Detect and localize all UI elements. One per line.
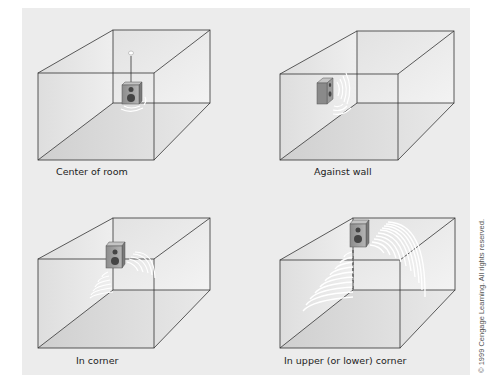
- speaker-icon: [317, 78, 333, 104]
- room-diagrams: [0, 0, 494, 389]
- room-against-wall: [280, 31, 454, 160]
- label-center-of-room: Center of room: [56, 166, 128, 177]
- label-against-wall: Against wall: [314, 166, 372, 177]
- copyright-notice: © 1999 Cengage Learning. All rights rese…: [477, 219, 486, 373]
- speaker-icon: [122, 82, 142, 104]
- speaker-icon: [106, 242, 125, 268]
- room-in-upper-or-lower-corner: [280, 218, 455, 348]
- room-in-corner: [38, 218, 210, 348]
- label-in-corner: In corner: [76, 355, 118, 366]
- speaker-icon: [350, 220, 369, 247]
- label-in-upper-or-lower-corner: In upper (or lower) corner: [284, 355, 406, 366]
- room-center-of-room: [38, 30, 210, 160]
